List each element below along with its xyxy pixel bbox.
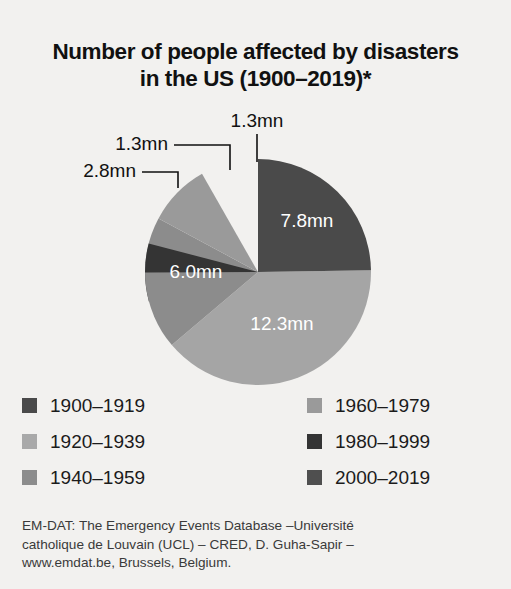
pie-callout-value-label: 1.3mn [231, 110, 284, 131]
page-title: Number of people affected by disasters i… [0, 38, 511, 93]
source-note: EM-DAT: The Emergency Events Database –U… [22, 517, 492, 573]
legend-color-swatch [22, 470, 37, 485]
pie-chart: 1.3mn12.3mn6.0mn2.8mn1.3mn7.8mn [0, 110, 511, 395]
pie-callout-value-label: 1.3mn [115, 133, 168, 154]
legend-item-label: 1900–1919 [50, 396, 145, 415]
legend-item-label: 1940–1959 [50, 468, 145, 487]
legend-item-label: 1920–1939 [50, 432, 145, 451]
source-line-2: catholique de Louvain (UCL) – CRED, D. G… [22, 536, 492, 555]
legend-item-label: 2000–2019 [335, 468, 430, 487]
source-line-1: EM-DAT: The Emergency Events Database –U… [22, 517, 492, 536]
legend-color-swatch [22, 434, 37, 449]
pie-slice-value-label: 12.3mn [250, 313, 313, 334]
pie-callout-value-label: 2.8mn [83, 160, 136, 181]
source-line-3: www.emdat.be, Brussels, Belgium. [22, 554, 492, 573]
legend-color-swatch [307, 470, 322, 485]
legend-color-swatch [307, 434, 322, 449]
pie-callout-leader-line [174, 145, 230, 170]
legend-color-swatch [307, 398, 322, 413]
legend-item[interactable]: 1960–1979 [307, 396, 430, 415]
pie-callout-leader-line [142, 172, 178, 188]
chart-legend: 1900–19191920–19391940–19591960–19791980… [22, 396, 492, 504]
legend-color-swatch [22, 398, 37, 413]
legend-item[interactable]: 1900–1919 [22, 396, 145, 415]
title-line-1: Number of people affected by disasters [0, 38, 511, 65]
legend-item[interactable]: 1980–1999 [307, 432, 430, 451]
pie-slice-value-label: 7.8mn [281, 210, 334, 231]
legend-item[interactable]: 2000–2019 [307, 468, 430, 487]
title-line-2: in the US (1900–2019)* [0, 65, 511, 92]
pie-chart-svg: 1.3mn12.3mn6.0mn2.8mn1.3mn7.8mn [0, 110, 511, 395]
infographic-page: Number of people affected by disasters i… [0, 0, 511, 589]
pie-slice-value-label: 6.0mn [170, 261, 223, 282]
legend-item[interactable]: 1940–1959 [22, 468, 145, 487]
legend-item[interactable]: 1920–1939 [22, 432, 145, 451]
legend-item-label: 1960–1979 [335, 396, 430, 415]
legend-item-label: 1980–1999 [335, 432, 430, 451]
